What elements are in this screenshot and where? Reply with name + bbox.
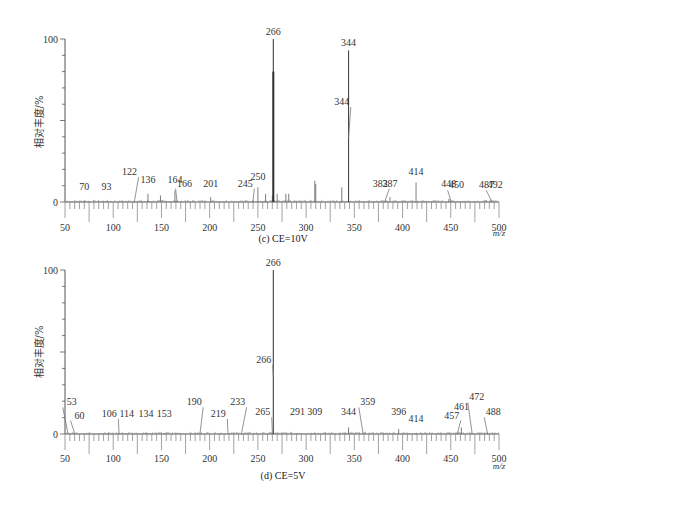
peak-label-472: 472 xyxy=(469,391,484,402)
peak-label-70: 70 xyxy=(79,181,89,192)
peak-label-136: 136 xyxy=(140,174,155,185)
x-tick-label: 350 xyxy=(347,453,362,464)
y-tick-label: 0 xyxy=(53,429,58,440)
leader-line-233 xyxy=(241,407,246,433)
peak-label-291: 291 xyxy=(290,406,305,417)
peak-label-396: 396 xyxy=(391,406,406,417)
x-tick-label: 400 xyxy=(395,453,410,464)
x-tick-label: 100 xyxy=(106,453,121,464)
leader-line-265 xyxy=(272,417,273,432)
peak-labels: 5360106114134153190219233265266266291309… xyxy=(63,257,501,433)
x-tick-label: 300 xyxy=(299,222,314,233)
axes: 010050100150200250300350400450500 xyxy=(43,34,507,234)
leader-line-488 xyxy=(484,417,487,433)
x-tick-label: 200 xyxy=(202,222,217,233)
peak-label-492: 492 xyxy=(488,179,503,190)
y-axis-label: 相对丰度/% xyxy=(33,326,45,379)
leader-line-122 xyxy=(134,177,138,201)
peak-label-359: 359 xyxy=(360,396,375,407)
peak-label-93: 93 xyxy=(101,181,111,192)
x-tick-label: 300 xyxy=(299,453,314,464)
y-tick-label: 100 xyxy=(43,34,58,45)
leader-line-166 xyxy=(176,189,177,201)
x-tick-label: 250 xyxy=(250,453,265,464)
axes: 010050100150200250300350400450500 xyxy=(43,265,507,465)
peak-label-190: 190 xyxy=(187,396,202,407)
x-axis-unit: m/z xyxy=(493,461,506,471)
leader-line-190 xyxy=(200,407,203,433)
peak-label-265: 265 xyxy=(255,406,270,417)
peak-label-166: 166 xyxy=(177,178,192,189)
peak-label-266: 266 xyxy=(256,354,271,365)
peak-label-266: 266 xyxy=(266,26,281,37)
peak-label-309: 309 xyxy=(307,406,322,417)
leader-line-382 xyxy=(385,189,389,201)
peak-label-233: 233 xyxy=(230,396,245,407)
y-tick-label: 0 xyxy=(53,197,58,208)
peak-label-344: 344 xyxy=(341,406,356,417)
peak-label-450: 450 xyxy=(449,179,464,190)
leader-line-359 xyxy=(359,407,363,433)
peak-label-201: 201 xyxy=(203,178,218,189)
peak-label-106: 106 xyxy=(102,408,117,419)
x-tick-label: 450 xyxy=(443,453,458,464)
peak-label-414: 414 xyxy=(409,413,424,424)
y-axis-label: 相对丰度/% xyxy=(33,96,45,149)
leader-line-492 xyxy=(486,190,491,200)
peak-label-219: 219 xyxy=(211,408,226,419)
peak-label-344: 344 xyxy=(334,96,349,107)
peak-label-134: 134 xyxy=(139,408,154,419)
panel-caption: (d) CE=5V xyxy=(261,470,307,482)
x-tick-label: 400 xyxy=(395,222,410,233)
x-axis-unit: m/z xyxy=(493,228,506,238)
leader-line-472 xyxy=(468,402,472,432)
peak-label-488: 488 xyxy=(486,406,501,417)
x-tick-label: 450 xyxy=(443,222,458,233)
peak-label-122: 122 xyxy=(122,166,137,177)
peak-label-387: 387 xyxy=(383,178,398,189)
peak-label-114: 114 xyxy=(119,408,134,419)
peak-labels: 7093122136164166201245250266344344382387… xyxy=(79,26,502,201)
x-tick-label: 350 xyxy=(347,222,362,233)
x-tick-label: 150 xyxy=(154,222,169,233)
x-tick-label: 50 xyxy=(60,453,70,464)
spectrum-panel-d: 相对丰度/% 010050100150200250300350400450500… xyxy=(33,257,507,482)
x-tick-label: 150 xyxy=(154,453,169,464)
x-tick-label: 200 xyxy=(202,453,217,464)
panel-caption: (c) CE=10V xyxy=(258,233,308,245)
peak-label-344: 344 xyxy=(341,37,356,48)
mass-spectra-figure: 相对丰度/% 010050100150200250300350400450500… xyxy=(0,0,681,506)
leader-line-219 xyxy=(227,419,228,433)
peak-label-414: 414 xyxy=(409,166,424,177)
x-tick-label: 50 xyxy=(60,222,70,233)
peak-label-53: 53 xyxy=(67,396,77,407)
peak-label-266: 266 xyxy=(266,257,281,268)
peak-label-153: 153 xyxy=(157,408,172,419)
leader-line-106 xyxy=(118,419,119,433)
peak-label-461: 461 xyxy=(454,401,469,412)
leader-line-60 xyxy=(70,421,74,434)
x-tick-label: 250 xyxy=(250,222,265,233)
spectrum-panel-c: 相对丰度/% 010050100150200250300350400450500… xyxy=(33,26,507,245)
peak-label-250: 250 xyxy=(250,171,265,182)
leader-line-245 xyxy=(253,189,254,201)
peak-label-60: 60 xyxy=(74,410,84,421)
x-tick-label: 100 xyxy=(106,222,121,233)
y-tick-label: 100 xyxy=(43,265,58,276)
leader-line-457 xyxy=(458,421,461,434)
